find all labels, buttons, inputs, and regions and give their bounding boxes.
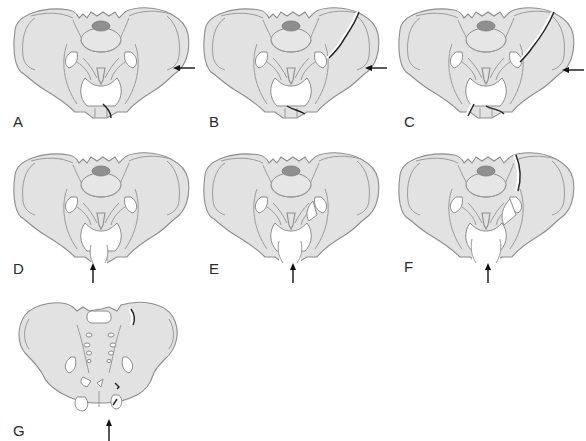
arrow-up-icon xyxy=(106,419,112,441)
pelvis-diagram-c xyxy=(390,0,586,135)
panel-label: G xyxy=(13,422,25,439)
panel-label: F xyxy=(404,258,413,275)
pelvis-diagram-b xyxy=(195,0,390,135)
panel-d: D xyxy=(5,145,200,290)
panel-label: A xyxy=(13,113,23,130)
pelvis-diagram-d xyxy=(5,145,200,290)
pelvis-diagram-e xyxy=(195,145,390,290)
pelvis-diagram-f xyxy=(390,145,586,290)
panel-label: D xyxy=(13,260,24,277)
panel-label: C xyxy=(404,113,415,130)
pelvis-diagram-g xyxy=(5,295,200,441)
panel-f: F xyxy=(390,145,586,290)
panel-e: E xyxy=(195,145,390,290)
panel-b: B xyxy=(195,0,390,135)
pelvis-diagram-a xyxy=(5,0,200,135)
panel-label: E xyxy=(209,260,219,277)
panel-g: G xyxy=(5,295,200,441)
panel-c: C xyxy=(390,0,586,135)
panel-label: B xyxy=(209,113,219,130)
panel-a: A xyxy=(5,0,200,135)
